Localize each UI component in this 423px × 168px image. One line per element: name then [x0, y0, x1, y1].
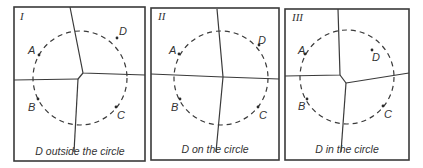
panel-3-label-a: A — [297, 44, 305, 56]
panel-1-edge-upper — [70, 7, 145, 75]
panel-1-circle — [33, 31, 127, 125]
panel-2-point-b — [179, 98, 182, 101]
panel-3-numeral: III — [291, 11, 304, 23]
panel-1-caption: D outside the circle — [35, 145, 124, 157]
panel-3: III A B C D D in the circle — [285, 9, 409, 160]
panel-1-edge-left — [14, 79, 78, 80]
panel-3-label-d: D — [372, 51, 380, 63]
panel-1-label-a: A — [27, 44, 35, 56]
panel-1-edge-short — [78, 73, 83, 79]
panel-1: I A B C D D outside the circle — [14, 7, 145, 161]
panel-3-circle — [300, 30, 394, 124]
panel-2-label-b: B — [171, 101, 178, 113]
panel-2-caption: D on the circle — [181, 143, 248, 155]
panel-1-point-a — [38, 54, 41, 57]
panel-2-label-d: D — [258, 34, 266, 46]
panel-2-edge-horizontal — [151, 74, 279, 79]
panel-3-frame — [285, 9, 409, 160]
panel-3-point-c — [382, 105, 385, 108]
panel-2: II A B C D D on the circle — [151, 8, 279, 160]
panel-1-label-d: D — [119, 25, 127, 37]
panel-3-label-b: B — [298, 100, 305, 112]
panel-2-point-c — [257, 106, 260, 109]
panel-1-edge-bottom — [74, 79, 78, 152]
panel-2-label-c: C — [259, 109, 267, 121]
panel-3-point-b — [306, 98, 309, 101]
panel-2-label-a: A — [168, 44, 176, 56]
panel-1-numeral: I — [19, 10, 25, 22]
panel-3-edge-short — [340, 75, 346, 83]
voronoi-figure: I A B C D D outside the circle II A B C … — [0, 0, 423, 168]
panel-1-point-d — [116, 37, 119, 40]
panel-3-edge-bottom — [341, 83, 346, 152]
panel-3-edge-right — [346, 73, 409, 83]
panel-1-label-c: C — [117, 109, 125, 121]
panel-2-frame — [151, 8, 279, 160]
panel-1-point-b — [37, 98, 40, 101]
panel-2-point-a — [178, 53, 181, 56]
panel-3-caption: D in the circle — [315, 143, 379, 155]
panel-1-point-c — [115, 106, 118, 109]
panel-2-numeral: II — [157, 10, 167, 22]
panel-3-label-c: C — [384, 108, 392, 120]
panel-1-label-b: B — [28, 101, 35, 113]
